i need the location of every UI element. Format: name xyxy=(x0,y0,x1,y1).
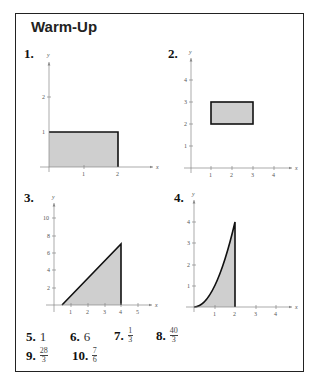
svg-text:4: 4 xyxy=(184,77,187,83)
svg-text:2: 2 xyxy=(233,311,236,317)
fraction: 283 xyxy=(40,347,48,364)
svg-text:1: 1 xyxy=(213,311,216,317)
svg-text:y: y xyxy=(51,194,55,200)
fraction: 76 xyxy=(92,347,97,364)
svg-text:4: 4 xyxy=(187,219,190,225)
answer-10: 10. 76 xyxy=(72,347,97,364)
svg-text:y: y xyxy=(188,49,192,55)
svg-text:2: 2 xyxy=(184,121,187,127)
svg-text:4: 4 xyxy=(119,309,122,315)
svg-text:4: 4 xyxy=(47,267,50,273)
svg-text:1: 1 xyxy=(184,143,187,149)
svg-text:4: 4 xyxy=(274,311,277,317)
svg-text:x: x xyxy=(155,164,159,170)
fraction: 403 xyxy=(170,327,178,344)
svg-text:6: 6 xyxy=(47,250,50,256)
graph-3: 12345 246810 xy xyxy=(43,194,158,315)
svg-text:3: 3 xyxy=(251,172,254,178)
svg-text:8: 8 xyxy=(47,233,50,239)
answer-5: 5.1 xyxy=(26,329,46,345)
svg-text:3: 3 xyxy=(103,309,106,315)
answer-8: 8. 403 xyxy=(156,327,178,344)
svg-text:1: 1 xyxy=(69,309,72,315)
fraction: 13 xyxy=(128,327,133,344)
svg-text:x: x xyxy=(294,165,298,171)
graph-2: 1234 1234 xy xyxy=(184,49,298,178)
svg-text:1: 1 xyxy=(82,171,85,177)
answer-9: 9. 283 xyxy=(26,347,48,364)
svg-text:5: 5 xyxy=(136,309,139,315)
svg-text:3: 3 xyxy=(184,99,187,105)
svg-text:3: 3 xyxy=(187,240,190,246)
svg-text:2: 2 xyxy=(187,262,190,268)
svg-text:2: 2 xyxy=(230,172,233,178)
svg-text:x: x xyxy=(294,304,298,310)
svg-text:2: 2 xyxy=(116,171,119,177)
svg-text:4: 4 xyxy=(272,172,275,178)
svg-text:1: 1 xyxy=(187,283,190,289)
svg-text:2: 2 xyxy=(42,94,45,100)
graph-4: 1234 1234 xy xyxy=(186,191,298,317)
svg-text:2: 2 xyxy=(47,285,50,291)
svg-text:3: 3 xyxy=(254,311,257,317)
svg-text:2: 2 xyxy=(86,309,89,315)
answer-7: 7. 13 xyxy=(114,327,133,344)
svg-text:x: x xyxy=(154,302,158,308)
svg-text:1: 1 xyxy=(42,129,45,135)
graph-1: 12 12 xy xyxy=(40,52,159,177)
svg-text:y: y xyxy=(46,52,50,58)
svg-text:y: y xyxy=(191,191,195,197)
svg-text:10: 10 xyxy=(43,215,49,221)
answer-6: 6.6 xyxy=(70,329,90,345)
svg-text:1: 1 xyxy=(209,172,212,178)
